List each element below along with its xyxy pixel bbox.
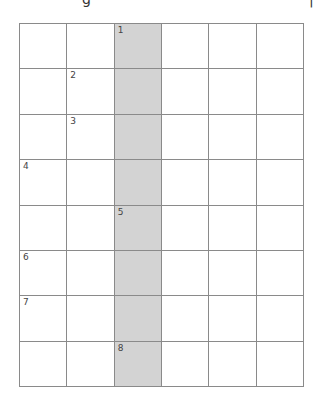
grid-cell[interactable] (20, 206, 67, 251)
grid-cell[interactable] (209, 296, 256, 341)
grid-cell[interactable] (257, 206, 304, 251)
grid-cell[interactable] (209, 69, 256, 114)
grid-cell[interactable] (162, 69, 209, 114)
grid-cell[interactable] (67, 206, 114, 251)
grid-cell[interactable] (257, 160, 304, 205)
grid-cell[interactable] (20, 342, 67, 387)
grid-cell[interactable] (67, 24, 114, 69)
clue-number: 7 (23, 298, 29, 307)
crossword-grid: 12345678 (19, 23, 304, 387)
grid-cell[interactable] (20, 24, 67, 69)
grid-cell[interactable] (162, 115, 209, 160)
grid-cell[interactable] (257, 342, 304, 387)
grid-cell-shaded[interactable] (115, 160, 162, 205)
grid-cell[interactable]: 3 (67, 115, 114, 160)
grid-cell-shaded[interactable]: 5 (115, 206, 162, 251)
grid-cell[interactable]: 6 (20, 251, 67, 296)
grid-cell[interactable] (209, 160, 256, 205)
clue-number: 4 (23, 162, 29, 171)
cropped-heading-glyph: | (309, 0, 314, 7)
grid-cell[interactable] (257, 296, 304, 341)
grid-cell[interactable] (209, 115, 256, 160)
clue-number: 6 (23, 253, 29, 262)
grid-cell[interactable] (67, 342, 114, 387)
grid-cell[interactable] (257, 24, 304, 69)
grid-cell[interactable] (67, 160, 114, 205)
grid-cell-shaded[interactable]: 8 (115, 342, 162, 387)
grid-cell[interactable] (257, 69, 304, 114)
grid-cell-shaded[interactable]: 1 (115, 24, 162, 69)
grid-cell[interactable] (20, 69, 67, 114)
grid-cell[interactable] (162, 342, 209, 387)
clue-number: 8 (118, 344, 124, 353)
clue-number: 1 (118, 26, 124, 35)
grid-cell[interactable] (209, 24, 256, 69)
grid-cell[interactable] (257, 115, 304, 160)
grid-cell[interactable] (20, 115, 67, 160)
grid-cell-shaded[interactable] (115, 69, 162, 114)
grid-cell[interactable] (162, 296, 209, 341)
clue-number: 3 (70, 117, 76, 126)
grid-cell[interactable] (162, 206, 209, 251)
grid-cell[interactable] (162, 160, 209, 205)
cropped-heading-glyph: g (82, 0, 91, 7)
grid-cell[interactable] (209, 251, 256, 296)
grid-cell[interactable] (67, 251, 114, 296)
grid-cell[interactable] (209, 342, 256, 387)
grid-cell[interactable]: 4 (20, 160, 67, 205)
grid-cell-shaded[interactable] (115, 115, 162, 160)
grid-cell[interactable]: 7 (20, 296, 67, 341)
grid-cell[interactable]: 2 (67, 69, 114, 114)
grid-cell[interactable] (162, 251, 209, 296)
clue-number: 5 (118, 208, 124, 217)
grid-cell[interactable] (162, 24, 209, 69)
grid-cell-shaded[interactable] (115, 296, 162, 341)
grid-cell-shaded[interactable] (115, 251, 162, 296)
clue-number: 2 (70, 71, 76, 80)
grid-cell[interactable] (257, 251, 304, 296)
grid-cell[interactable] (209, 206, 256, 251)
grid-cell[interactable] (67, 296, 114, 341)
